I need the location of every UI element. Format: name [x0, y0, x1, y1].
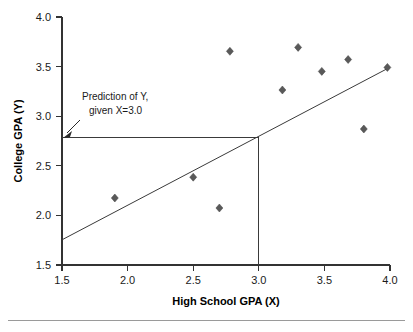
x-tick-label-4.0: 4.0	[382, 274, 397, 286]
chart-page: 4.0 3.5 3.0 2.5 2.0 1.5 1.5 2.0 2.5 3.0 …	[0, 0, 413, 332]
x-tick-label-3.0: 3.0	[251, 274, 266, 286]
y-tick-label-1.5: 1.5	[36, 259, 51, 271]
y-tick-label-4.0: 4.0	[36, 11, 51, 23]
data-point	[295, 43, 302, 51]
annotation-line-2: given X=3.0	[89, 105, 143, 116]
data-point	[111, 194, 118, 202]
y-tick-label-2.0: 2.0	[36, 209, 51, 221]
y-tick-group: 4.0 3.5 3.0 2.5 2.0 1.5	[36, 11, 62, 271]
data-point	[226, 47, 233, 55]
x-tick-label-2.0: 2.0	[120, 274, 135, 286]
annotation-arrow-line	[67, 120, 80, 133]
data-markers	[111, 43, 391, 212]
y-tick-label-3.0: 3.0	[36, 110, 51, 122]
scatter-plot: 4.0 3.5 3.0 2.5 2.0 1.5 1.5 2.0 2.5 3.0 …	[0, 0, 413, 332]
annotation-line-1: Prediction of Y,	[82, 91, 148, 102]
y-tick-label-2.5: 2.5	[36, 160, 51, 172]
prediction-annotation: Prediction of Y, given X=3.0	[63, 91, 148, 138]
x-tick-label-3.5: 3.5	[317, 274, 332, 286]
x-axis-title: High School GPA (X)	[172, 295, 280, 307]
data-point	[360, 125, 367, 133]
x-tick-label-2.5: 2.5	[186, 274, 201, 286]
axes-group	[62, 17, 390, 265]
data-point	[190, 173, 197, 181]
y-axis-title: College GPA (Y)	[12, 99, 24, 182]
data-point	[345, 56, 352, 64]
y-tick-label-3.5: 3.5	[36, 61, 51, 73]
x-tick-group: 1.5 2.0 2.5 3.0 3.5 4.0	[54, 265, 397, 286]
data-point	[318, 67, 325, 75]
x-tick-label-1.5: 1.5	[54, 274, 69, 286]
data-point	[216, 204, 223, 212]
prediction-guides	[62, 137, 259, 265]
data-point	[279, 86, 286, 94]
